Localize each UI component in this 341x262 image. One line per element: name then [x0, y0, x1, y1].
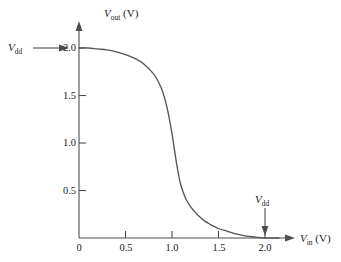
chart-figure: Vout (V) Vin (V) Vdd Vdd 0.5 1.0 1.5 2.0… — [0, 0, 341, 262]
vdd-y-subscript: dd — [15, 47, 22, 56]
vdd-y-annotation-label: Vdd — [8, 42, 22, 56]
vdd-x-arrow — [262, 208, 269, 236]
y-axis-title-symbol: V — [104, 7, 111, 19]
y-tick-label-3: 2.0 — [56, 43, 76, 54]
x-axis-ticks — [126, 231, 266, 238]
y-axis-arrowhead — [76, 21, 83, 31]
x-axis-title-subscript: in — [307, 238, 313, 247]
x-axis-arrowhead — [285, 235, 295, 242]
y-axis — [76, 21, 83, 238]
vdd-x-symbol: V — [255, 193, 262, 205]
vdd-x-subscript: dd — [262, 199, 269, 208]
x-tick-label-3: 1.5 — [208, 243, 230, 254]
x-tick-label-1: 0.5 — [115, 243, 137, 254]
y-tick-label-1: 1.0 — [56, 138, 76, 149]
transfer-characteristic-curve — [79, 48, 279, 238]
inverter-transfer-curve-plot — [0, 0, 341, 262]
x-axis-title-symbol: V — [300, 232, 307, 244]
x-tick-label-2: 1.0 — [161, 243, 183, 254]
y-axis-title-unit: (V) — [123, 7, 138, 19]
x-axis-title-unit: (V) — [315, 232, 330, 244]
vdd-x-annotation-label: Vdd — [255, 194, 269, 208]
y-axis-title-subscript: out — [111, 13, 121, 22]
y-tick-label-0: 0.5 — [56, 186, 76, 197]
x-tick-label-0: 0 — [69, 243, 89, 254]
y-tick-label-2: 1.5 — [56, 91, 76, 102]
vdd-y-symbol: V — [8, 41, 15, 53]
x-tick-label-4: 2.0 — [254, 243, 276, 254]
y-axis-title: Vout (V) — [104, 8, 138, 22]
y-axis-ticks — [79, 48, 86, 191]
x-axis-title: Vin (V) — [300, 233, 331, 247]
